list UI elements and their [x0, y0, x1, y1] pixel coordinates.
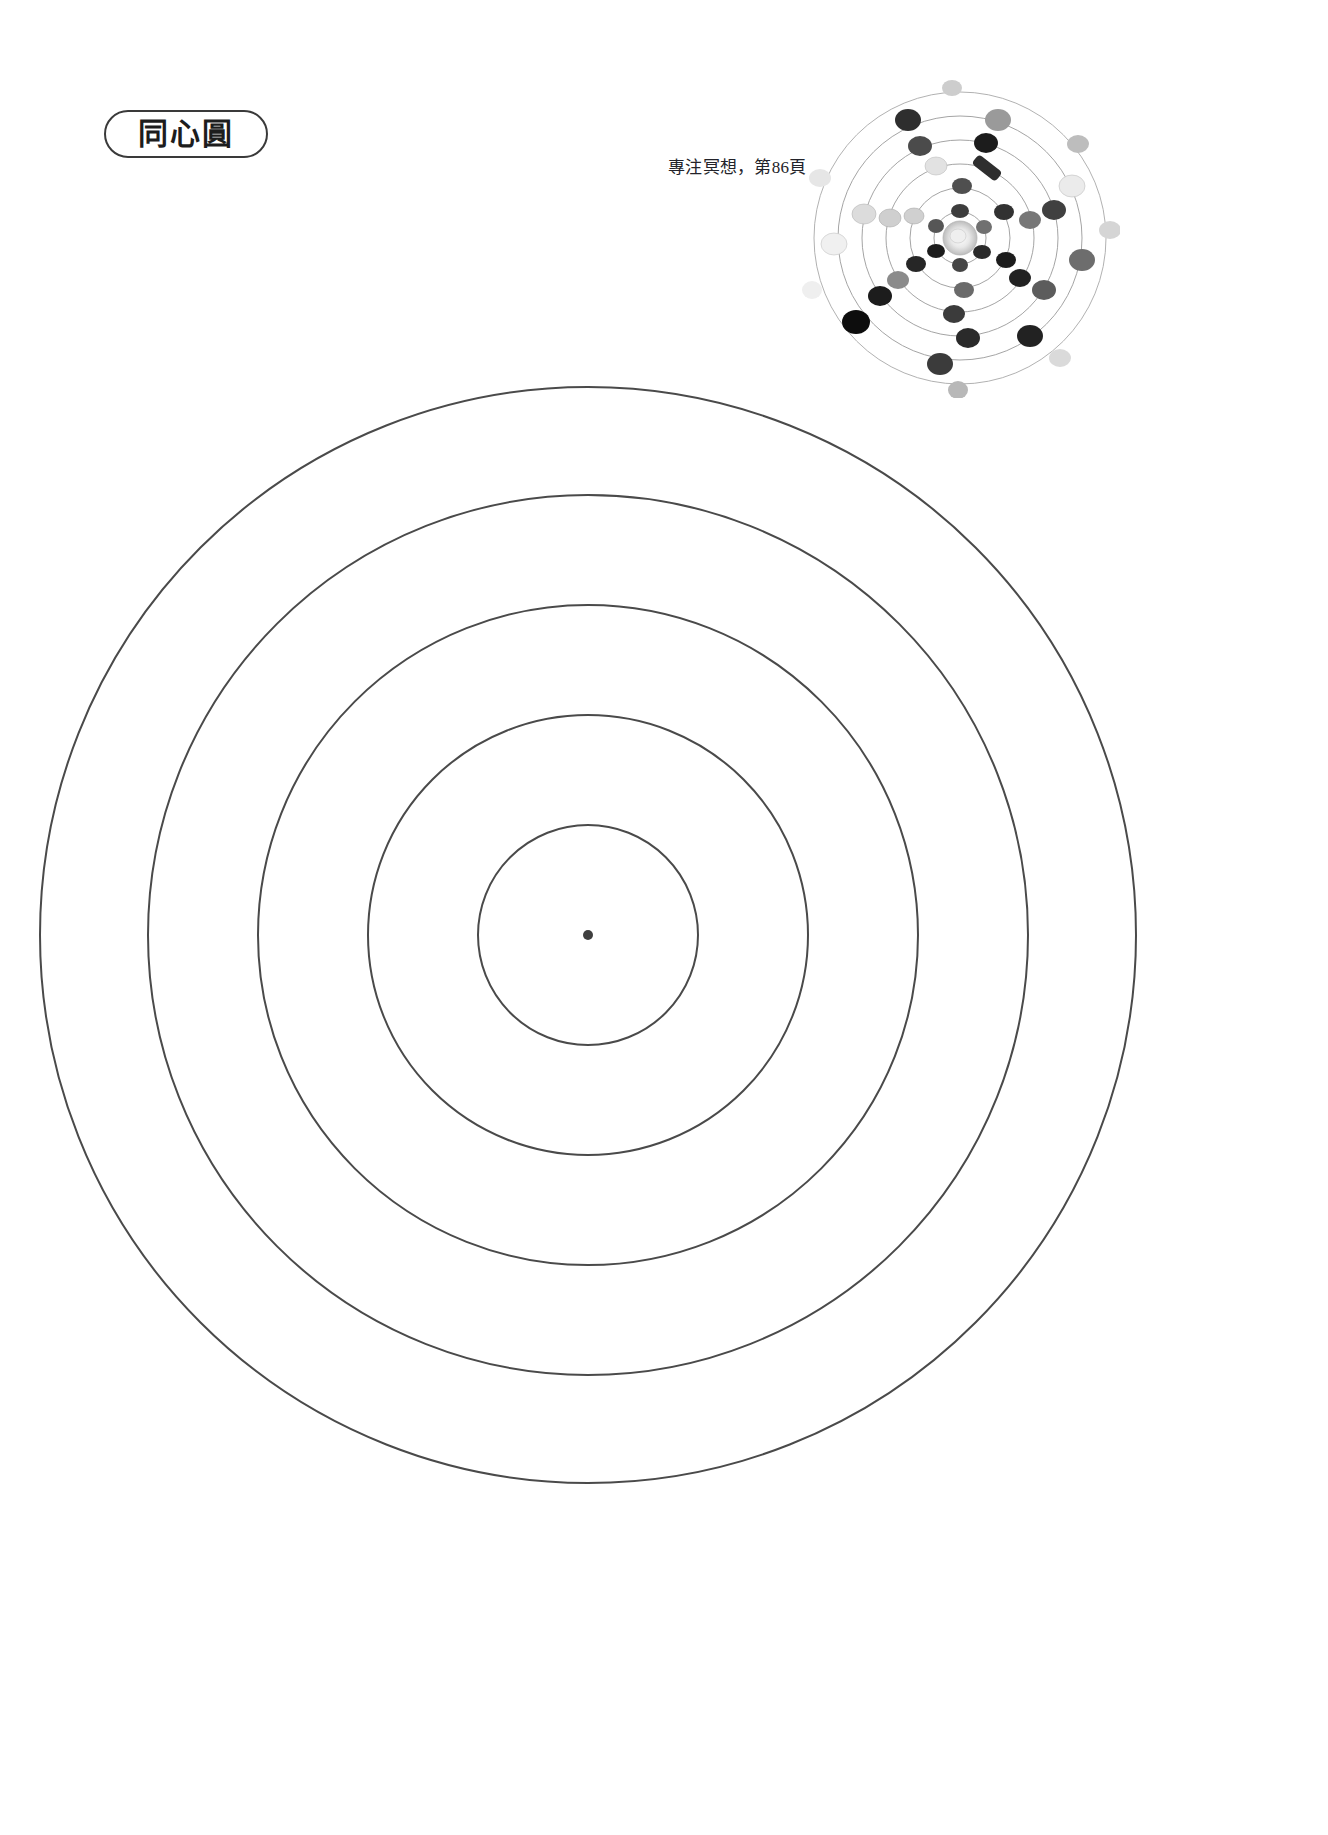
concentric-circles-diagram	[0, 330, 1328, 1590]
center-dot	[583, 930, 593, 940]
thumbnail-caption: 專注冥想，第86頁	[668, 157, 807, 179]
page-title: 同心圓	[138, 119, 234, 149]
page-title-pill: 同心圓	[104, 110, 268, 158]
